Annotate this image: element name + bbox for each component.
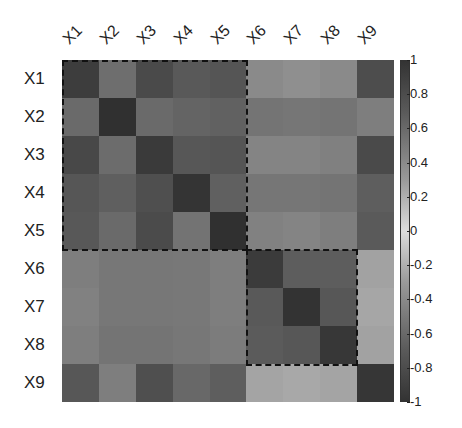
heatmap-cell [246,174,283,212]
column-label: X4 [170,21,197,48]
heatmap-cell [173,326,210,364]
heatmap-cell [62,288,99,326]
column-label: X2 [96,21,123,48]
colorbar-tick-label: -0.4 [410,292,432,306]
heatmap-cell [210,364,247,402]
heatmap-cell [99,174,136,212]
heatmap-cell [136,250,173,288]
heatmap-cell [173,212,210,250]
heatmap-cell [62,136,99,174]
heatmap-cell [136,174,173,212]
heatmap-cell [283,60,320,98]
heatmap-cell [246,212,283,250]
heatmap-cell [320,136,357,174]
row-label: X9 [24,364,56,402]
heatmap-cell [62,326,99,364]
heatmap-cell [357,136,394,174]
heatmap-cell [210,250,247,288]
heatmap-cell [283,174,320,212]
column-label: X5 [207,21,234,48]
heatmap-cell [283,326,320,364]
colorbar-tick-label: -0.8 [410,361,432,375]
heatmap-cell [99,212,136,250]
heatmap-cell [210,174,247,212]
column-label: X6 [244,21,271,48]
heatmap-cell [320,288,357,326]
heatmap-cell [357,250,394,288]
heatmap-cell [246,288,283,326]
heatmap-cell [246,364,283,402]
heatmap-cell [173,136,210,174]
heatmap-cell [136,288,173,326]
heatmap-cell [283,212,320,250]
heatmap-cell [357,212,394,250]
heatmap-cell [99,326,136,364]
heatmap-cell [99,136,136,174]
heatmap-cell [210,136,247,174]
colorbar-tick-label: 0.2 [410,190,428,204]
row-label: X4 [24,174,56,212]
heatmap-cell [246,98,283,136]
heatmap-cell [62,60,99,98]
heatmap-cell [320,326,357,364]
heatmap-cell [136,364,173,402]
heatmap-cell [283,136,320,174]
row-label: X6 [24,250,56,288]
heatmap-cell [173,250,210,288]
heatmap-cell [357,364,394,402]
heatmap-cell [320,174,357,212]
column-label: X7 [281,21,308,48]
column-label: X9 [354,21,381,48]
row-label: X2 [24,98,56,136]
colorbar-tick-label: 0 [410,224,417,238]
heatmap-cell [357,288,394,326]
heatmap-cell [210,288,247,326]
heatmap-cell [99,364,136,402]
heatmap-cell [136,326,173,364]
heatmap-cell [136,98,173,136]
row-label: X1 [24,60,56,98]
heatmap-cell [62,212,99,250]
heatmap-cell [136,136,173,174]
heatmap-cell [173,364,210,402]
heatmap-cell [246,326,283,364]
heatmap-cell [357,174,394,212]
heatmap-cell [99,98,136,136]
column-label: X8 [317,21,344,48]
heatmap-cell [210,326,247,364]
heatmap-cell [210,60,247,98]
row-label: X8 [24,326,56,364]
heatmap-cell [62,98,99,136]
colorbar-tick-label: -1 [410,395,422,409]
heatmap-cell [283,98,320,136]
heatmap-cell [210,212,247,250]
colorbar-tick-label: 0.4 [410,156,428,170]
heatmap-cell [99,250,136,288]
heatmap-cell [62,174,99,212]
heatmap-cell [283,364,320,402]
heatmap-cell [320,250,357,288]
row-label: X7 [24,288,56,326]
row-label: X3 [24,136,56,174]
heatmap-cell [320,212,357,250]
heatmap-cell [173,98,210,136]
heatmap-cell [62,250,99,288]
column-label: X3 [133,21,160,48]
heatmap-cell [283,250,320,288]
heatmap-cell [320,364,357,402]
row-label: X5 [24,212,56,250]
heatmap-cell [357,326,394,364]
heatmap-cell [283,288,320,326]
heatmap-cell [246,60,283,98]
heatmap-cell [62,364,99,402]
heatmap-cell [210,98,247,136]
heatmap-cell [320,98,357,136]
heatmap-cell [136,212,173,250]
heatmap-cell [173,288,210,326]
colorbar-tick-label: -0.2 [410,258,432,272]
correlation-heatmap [62,60,394,402]
heatmap-cell [357,60,394,98]
colorbar-tick-label: 1 [410,53,417,67]
heatmap-cell [99,60,136,98]
heatmap-cell [246,250,283,288]
